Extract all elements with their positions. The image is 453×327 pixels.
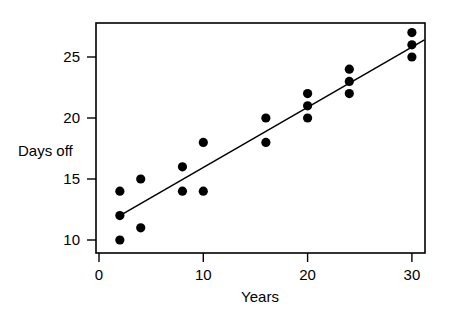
data-point xyxy=(303,101,312,110)
data-point xyxy=(136,223,145,232)
data-point xyxy=(115,187,124,196)
data-point xyxy=(345,77,354,86)
data-point xyxy=(178,162,187,171)
data-point xyxy=(303,89,312,98)
data-point xyxy=(199,187,208,196)
data-point xyxy=(115,235,124,244)
data-point xyxy=(261,138,270,147)
data-point xyxy=(178,187,187,196)
y-tick-label: 15 xyxy=(63,170,80,187)
y-tick-label: 10 xyxy=(63,231,80,248)
chart-canvas: 0102030 10152025 Years Days off xyxy=(0,0,453,327)
data-point xyxy=(407,28,416,37)
x-tick-label: 10 xyxy=(195,266,212,283)
x-tick-label: 20 xyxy=(299,266,316,283)
x-axis-title: Years xyxy=(241,288,279,305)
data-point xyxy=(345,89,354,98)
data-point xyxy=(407,40,416,49)
trend-line xyxy=(120,40,425,216)
data-point xyxy=(345,65,354,74)
x-axis-ticks: 0102030 xyxy=(95,253,420,283)
y-tick-label: 20 xyxy=(63,109,80,126)
y-axis-title: Days off xyxy=(18,142,74,159)
x-tick-label: 0 xyxy=(95,266,103,283)
data-point xyxy=(407,52,416,61)
data-points xyxy=(115,28,416,245)
scatter-chart: 0102030 10152025 Years Days off xyxy=(0,0,453,327)
x-tick-label: 30 xyxy=(404,266,421,283)
data-point xyxy=(136,174,145,183)
plot-frame xyxy=(96,23,425,253)
data-point xyxy=(261,113,270,122)
y-tick-label: 25 xyxy=(63,48,80,65)
data-point xyxy=(303,113,312,122)
data-point xyxy=(115,211,124,220)
data-point xyxy=(199,138,208,147)
